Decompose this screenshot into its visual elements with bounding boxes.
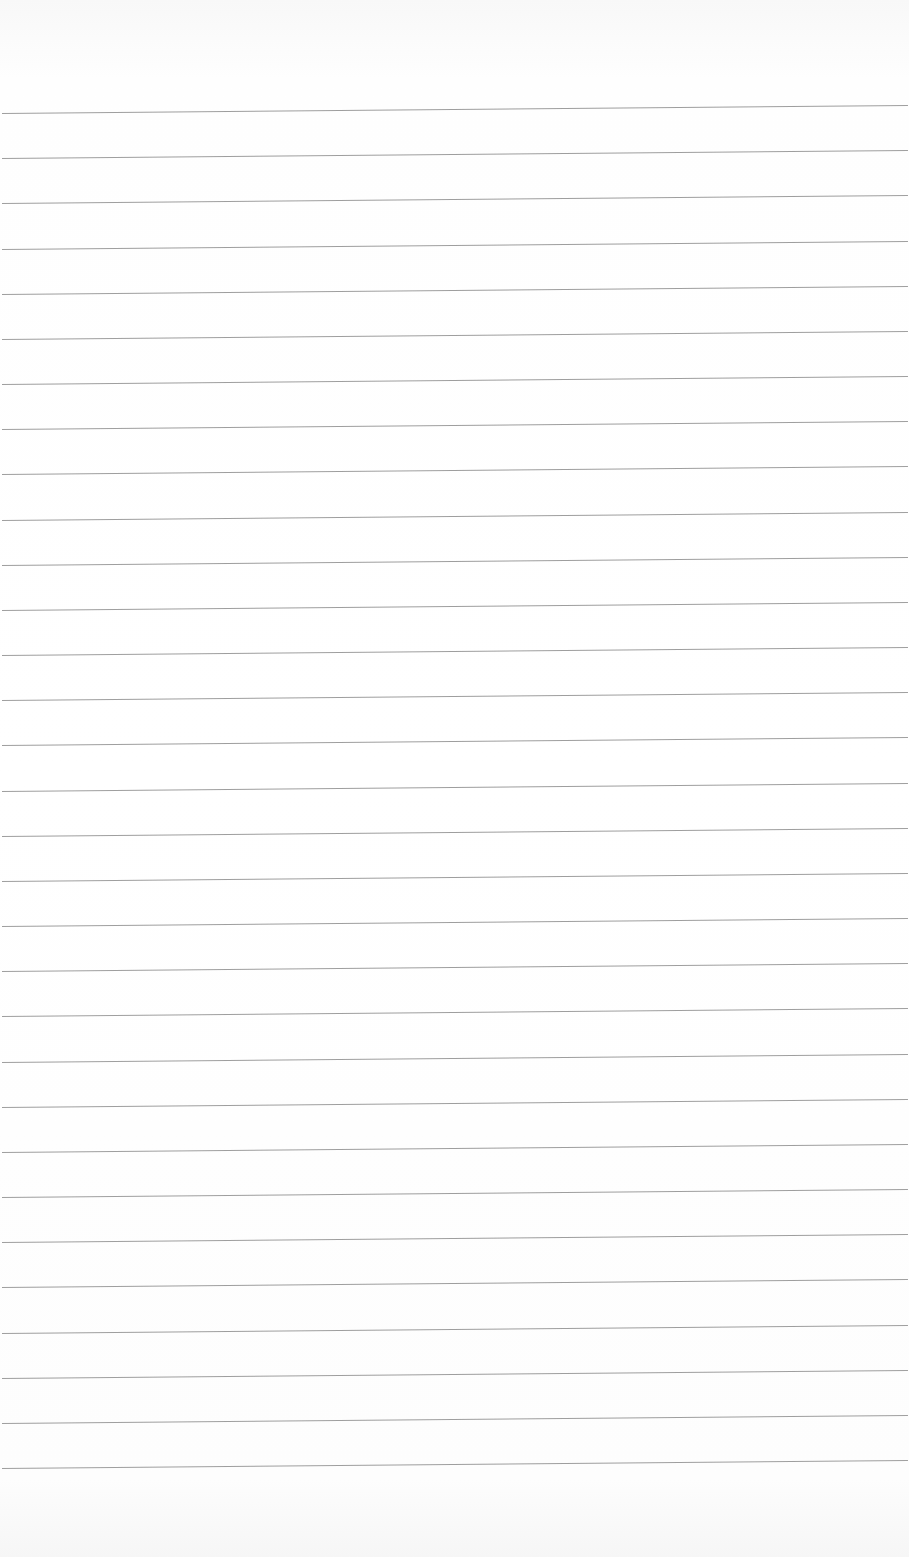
ruled-line <box>2 241 908 250</box>
ruled-line <box>2 331 908 340</box>
ruled-line <box>2 421 908 430</box>
ruled-line <box>2 1099 908 1108</box>
ruled-line <box>2 1144 908 1153</box>
ruled-line <box>2 376 908 385</box>
ruled-line <box>2 466 908 475</box>
ruled-line <box>2 150 908 159</box>
ruled-line <box>2 1054 908 1063</box>
ruled-line <box>2 1234 908 1243</box>
ruled-line <box>2 1189 908 1198</box>
ruled-line <box>2 557 908 566</box>
ruled-line <box>2 1325 908 1334</box>
ruled-line <box>2 963 908 972</box>
ruled-line <box>2 602 908 611</box>
ruled-line <box>2 873 908 882</box>
ruled-line <box>2 918 908 927</box>
ruled-line <box>2 828 908 837</box>
ruled-line <box>2 195 908 204</box>
ruled-line <box>2 1370 908 1379</box>
lined-paper-sheet <box>0 0 909 1557</box>
ruled-line <box>2 1008 908 1017</box>
ruled-line <box>2 1460 908 1469</box>
ruled-line <box>2 783 908 792</box>
ruled-line <box>2 737 908 746</box>
ruled-line <box>2 1280 908 1289</box>
ruled-line <box>2 105 908 114</box>
ruled-line <box>2 512 908 521</box>
ruled-line <box>2 286 908 295</box>
ruled-line <box>2 1415 908 1424</box>
ruled-line <box>2 647 908 656</box>
ruled-line <box>2 692 908 701</box>
